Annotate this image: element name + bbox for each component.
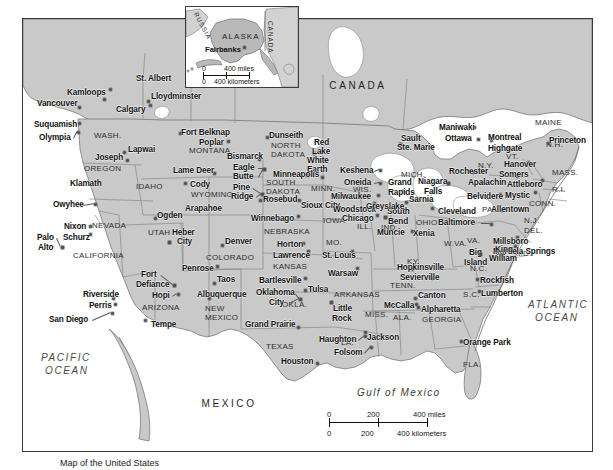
- map-frame: .land { fill:#c9c9c9; stroke:#6b6b6b; st…: [22, 18, 593, 452]
- map-figure: .land { fill:#c9c9c9; stroke:#6b6b6b; st…: [0, 0, 613, 470]
- map-geometry: .land { fill:#c9c9c9; stroke:#6b6b6b; st…: [23, 19, 592, 451]
- alaska-inset-geometry: [186, 7, 298, 87]
- figure-caption: Map of the United States: [60, 458, 613, 470]
- alaska-inset: ALASKA Fairbanks RUSSIA CANADA 0 400 mil…: [185, 6, 299, 88]
